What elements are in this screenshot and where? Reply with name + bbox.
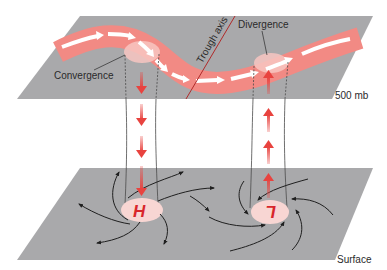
surface-level-label: Surface <box>337 254 372 265</box>
upper-level-label: 500 mb <box>335 90 369 101</box>
surface-level: Surface <box>17 168 373 265</box>
up-arrow <box>263 140 274 164</box>
low-pressure-label: L <box>266 202 276 221</box>
up-arrow <box>263 108 274 132</box>
jet-arrow <box>196 80 218 81</box>
convergence-label: Convergence <box>54 70 114 81</box>
down-arrow <box>136 136 147 158</box>
upper-level-500mb: Trough axis Convergence Divergence 500 m… <box>17 15 373 101</box>
high-pressure-label: H <box>133 202 146 221</box>
down-arrow <box>136 104 147 126</box>
divergence-label: Divergence <box>238 19 289 30</box>
jet-arrow <box>108 34 131 36</box>
convergence-divergence-diagram: Trough axis Convergence Divergence 500 m… <box>0 0 387 270</box>
surface-plane <box>17 168 373 260</box>
